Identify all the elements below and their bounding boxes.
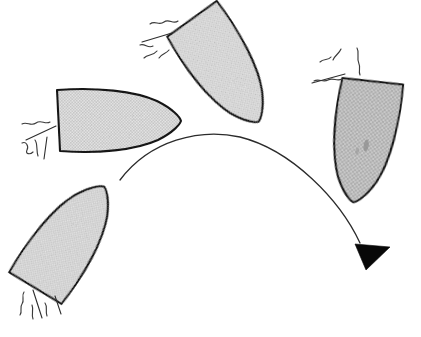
bristle-icon	[320, 57, 331, 62]
bristle-icon	[33, 290, 42, 318]
seed-1-bristles	[22, 122, 56, 159]
seed-3-bristles	[312, 48, 360, 83]
seed-position-4	[8, 169, 130, 307]
bristle-icon	[144, 51, 157, 58]
bristle-icon	[44, 137, 47, 159]
bristle-icon	[20, 292, 24, 315]
bristle-icon	[357, 48, 360, 75]
bristle-icon	[159, 50, 169, 58]
seed-position-2	[165, 0, 285, 138]
illustration-svg	[0, 0, 421, 337]
figure-canvas: Tumbling bristled seed trajectory Hand-d…	[0, 0, 421, 337]
bristle-icon	[140, 45, 153, 47]
bristle-icon	[22, 122, 50, 125]
seed-position-3	[323, 75, 405, 207]
trajectory-arc	[120, 134, 360, 243]
bristle-icon	[312, 74, 345, 83]
seed-4-body	[8, 169, 130, 307]
bristle-icon	[150, 21, 178, 24]
seed-3-body	[323, 75, 405, 207]
bristle-icon	[333, 49, 341, 60]
seed-position-1	[57, 89, 181, 152]
bristle-icon	[45, 303, 47, 316]
bristle-icon	[314, 79, 342, 81]
bristle-icon	[32, 305, 33, 319]
seed-2-body	[165, 0, 285, 138]
arrowhead-icon	[355, 244, 390, 270]
seed-1-body	[57, 89, 181, 152]
bristle-icon	[35, 140, 38, 156]
bristle-icon	[26, 126, 56, 140]
bristle-icon	[22, 143, 33, 154]
